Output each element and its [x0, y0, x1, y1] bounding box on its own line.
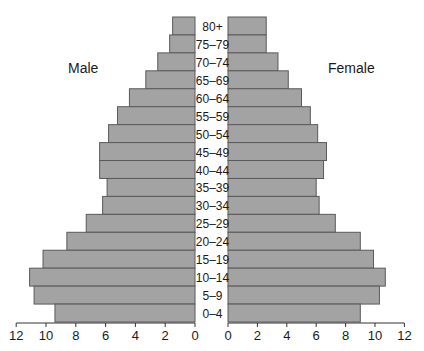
left-tick-label: 6	[102, 328, 109, 343]
male-bar	[118, 107, 195, 125]
female-bar	[228, 35, 266, 53]
age-group-label: 40–44	[196, 164, 230, 178]
age-group-label: 65–69	[196, 74, 230, 88]
right-tick-label: 6	[313, 328, 320, 343]
female-bar	[228, 178, 316, 196]
female-bar	[228, 304, 360, 322]
age-group-label: 0–4	[202, 307, 222, 321]
age-group-label: 5–9	[202, 289, 222, 303]
male-bar	[67, 232, 195, 250]
male-bar	[129, 89, 195, 107]
female-bar	[228, 143, 326, 161]
right-tick-label: 0	[224, 328, 231, 343]
age-group-label: 50–54	[196, 128, 230, 142]
female-bar	[228, 53, 278, 71]
male-bar	[146, 71, 195, 89]
female-bar	[228, 161, 324, 179]
age-group-label: 60–64	[196, 92, 230, 106]
age-group-label: 25–29	[196, 217, 230, 231]
male-bar	[100, 143, 195, 161]
male-bar	[34, 286, 195, 304]
female-bar	[228, 232, 360, 250]
left-tick-label: 8	[72, 328, 79, 343]
chart-canvas: 80+75–7970–7465–6960–6455–5950–5445–4940…	[0, 0, 424, 351]
age-group-label: 80+	[202, 20, 222, 34]
male-bar	[107, 178, 195, 196]
age-group-label: 35–39	[196, 181, 230, 195]
age-group-label: 10–14	[196, 271, 230, 285]
right-tick-label: 10	[368, 328, 382, 343]
male-bar	[170, 35, 195, 53]
age-group-label: 45–49	[196, 146, 230, 160]
left-tick-label: 4	[132, 328, 139, 343]
male-bar	[100, 161, 195, 179]
female-bar	[228, 268, 385, 286]
female-bar	[228, 196, 319, 214]
female-label: Female	[328, 60, 375, 76]
left-tick-label: 10	[39, 328, 53, 343]
female-bar	[228, 286, 379, 304]
population-pyramid-chart: 80+75–7970–7465–6960–6455–5950–5445–4940…	[0, 0, 424, 351]
female-bar	[228, 17, 266, 35]
female-bar	[228, 107, 310, 125]
female-bar	[228, 214, 335, 232]
female-bar	[228, 250, 374, 268]
male-bar	[158, 53, 195, 71]
male-bar	[103, 196, 195, 214]
male-bar	[86, 214, 195, 232]
right-tick-label: 2	[254, 328, 261, 343]
left-tick-label: 2	[162, 328, 169, 343]
male-bar	[55, 304, 195, 322]
left-tick-label: 0	[191, 328, 198, 343]
age-group-label: 70–74	[196, 56, 230, 70]
female-bar	[228, 71, 288, 89]
male-bar	[109, 125, 195, 143]
female-bar	[228, 125, 318, 143]
left-tick-label: 12	[9, 328, 23, 343]
age-group-label: 30–34	[196, 199, 230, 213]
male-bar	[173, 17, 195, 35]
male-bar	[30, 268, 195, 286]
age-group-label: 15–19	[196, 253, 230, 267]
age-group-label: 55–59	[196, 110, 230, 124]
right-tick-label: 12	[397, 328, 411, 343]
female-bar	[228, 89, 302, 107]
male-bar	[43, 250, 195, 268]
age-group-label: 20–24	[196, 235, 230, 249]
right-tick-label: 8	[342, 328, 349, 343]
age-group-label: 75–79	[196, 38, 230, 52]
male-label: Male	[68, 60, 98, 76]
right-tick-label: 4	[283, 328, 290, 343]
